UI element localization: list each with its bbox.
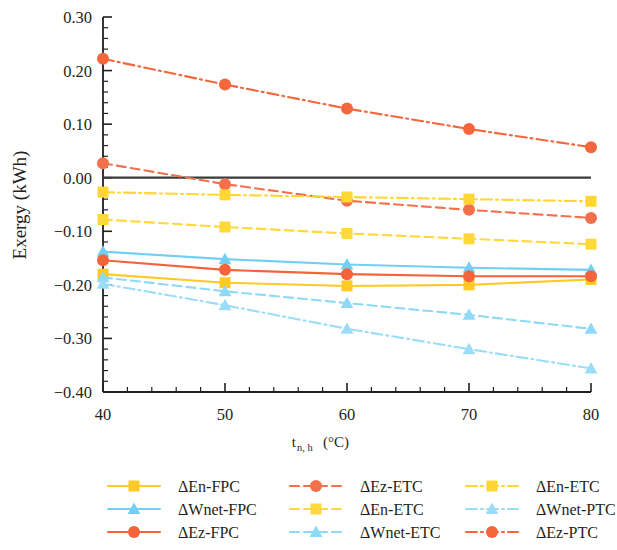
square-marker [487,481,498,492]
circle-marker [128,526,140,538]
x-tick-label: 40 [95,405,112,424]
circle-marker [219,178,231,190]
legend-label: ΔEz-ETC [360,478,423,495]
circle-marker [219,264,231,276]
square-marker [464,233,475,244]
square-marker [129,481,140,492]
square-marker [311,504,322,515]
x-axis-title-subscript: n, h [297,442,314,453]
chart-figure: 0.300.200.100.00−0.10−0.20−0.30−0.40 405… [0,0,617,550]
y-tick-label: −0.30 [54,329,92,348]
circle-marker [486,526,498,538]
legend-label: ΔEn-ETC [360,501,424,518]
square-marker [342,228,353,239]
circle-marker [97,53,109,65]
circle-marker [219,79,231,91]
circle-marker [463,204,475,216]
x-tick-label: 80 [583,405,600,424]
square-marker [220,222,231,233]
y-tick-label: −0.10 [54,222,92,241]
legend-label: ΔWnet-ETC [360,524,440,541]
circle-marker [341,268,353,280]
chart-legend: ΔEn-FPCΔWnet-FPCΔEz-FPCΔEz-ETCΔEn-ETCΔWn… [108,478,616,541]
legend-label: ΔWnet-PTC [536,501,616,518]
x-tick-label: 50 [217,405,234,424]
y-tick-label: 0.00 [63,169,92,188]
circle-marker [97,254,109,266]
legend-label: ΔEz-PTC [536,524,598,541]
x-tick-label: 60 [339,405,356,424]
circle-marker [463,123,475,135]
circle-marker [585,270,597,282]
square-marker [342,280,353,291]
y-axis-title: Exergy (kWh) [9,151,31,260]
square-marker [342,192,353,203]
circle-marker [585,212,597,224]
square-marker [98,214,109,225]
legend-label: ΔWnet-FPC [178,501,257,518]
x-axis-title-unit: (°C) [323,434,349,451]
y-tick-label: −0.40 [54,383,92,402]
exergy-line-chart: 0.300.200.100.00−0.10−0.20−0.30−0.40 405… [0,0,617,550]
chart-background [0,0,617,550]
square-marker [464,194,475,205]
y-axis-title-text: Exergy (kWh) [9,151,31,260]
square-marker [98,187,109,198]
legend-label: ΔEn-ETC [536,478,600,495]
legend-label: ΔEn-FPC [178,478,240,495]
x-tick-label: 70 [461,405,478,424]
square-marker [586,196,597,207]
circle-marker [341,103,353,115]
y-tick-label: 0.10 [63,115,92,134]
circle-marker [585,141,597,153]
y-tick-label: −0.20 [54,276,92,295]
y-tick-label: 0.20 [63,62,92,81]
y-tick-label: 0.30 [63,8,92,27]
square-marker [220,189,231,200]
circle-marker [97,157,109,169]
circle-marker [463,270,475,282]
circle-marker [310,480,322,492]
legend-label: ΔEz-FPC [178,524,239,541]
square-marker [586,239,597,250]
